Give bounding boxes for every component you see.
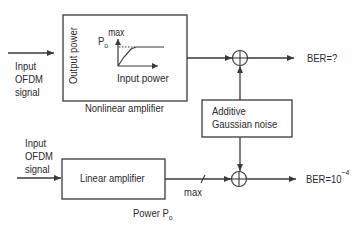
power-label-sub: o [169, 213, 173, 222]
bottom-input-label-line2: OFDM [25, 150, 53, 163]
linear-amplifier-title: Linear amplifier [80, 172, 145, 185]
noise-label-line1: Additive [212, 105, 277, 118]
saturation-sup: max [108, 27, 124, 38]
graph-y-axis-label: Output power [67, 27, 79, 84]
block-diagram-lines [0, 0, 363, 238]
bottom-output-label: BER=10−4 [306, 173, 349, 186]
saturation-sub: o [104, 41, 108, 50]
nonlinear-amplifier-title: Nonlinear amplifier [85, 102, 164, 115]
power-label-main: Power P [133, 207, 169, 219]
noise-block-label: Additive Gaussian noise [212, 105, 277, 131]
bottom-amp-to-sum-arrow [165, 175, 231, 183]
ber-exponent: −4 [342, 168, 350, 177]
top-input-label: Input OFDM signal [15, 60, 43, 99]
noise-label-line2: Gaussian noise [212, 118, 277, 131]
bottom-input-label: Input OFDM signal [25, 137, 53, 176]
power-p0-label: Power Po [133, 207, 173, 220]
top-input-label-line3: signal [15, 86, 43, 99]
graph-saturation-label: Pomax [98, 35, 124, 48]
nonlinear-amplifier-block [63, 15, 187, 101]
bottom-input-label-line1: Input [25, 137, 53, 150]
power-marker-max-label: max [184, 186, 202, 199]
top-output-label: BER=? [307, 52, 337, 65]
bottom-summing-junction [232, 172, 247, 187]
top-input-label-line2: OFDM [15, 73, 43, 86]
top-summing-junction [233, 51, 248, 66]
ber-main: BER=10 [306, 173, 342, 185]
top-input-label-line1: Input [15, 60, 43, 73]
bottom-input-label-line3: signal [25, 163, 53, 176]
graph-x-axis-label: Input power [117, 72, 169, 85]
transfer-curve-graph [118, 39, 164, 66]
